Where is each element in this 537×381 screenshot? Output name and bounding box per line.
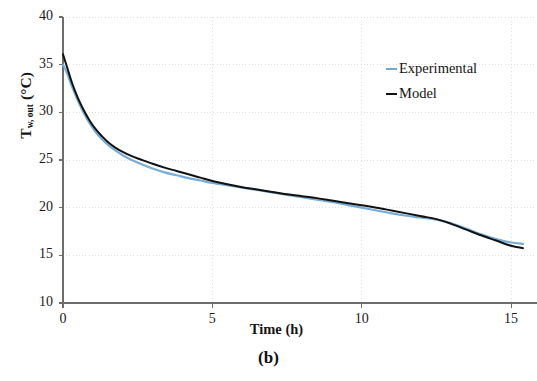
y-tick-label: 15 <box>19 246 53 262</box>
panel-caption: (b) <box>0 348 537 368</box>
y-axis-title-main: T <box>17 128 34 138</box>
y-axis-title: Tw, out (°C) <box>17 25 36 185</box>
y-axis-title-unit: (°C) <box>17 72 34 104</box>
y-tick-label: 20 <box>19 199 53 215</box>
legend-item: Model <box>386 81 526 106</box>
legend-item: Experimental <box>386 56 526 81</box>
x-axis-title: Time (h) <box>0 321 537 338</box>
legend-line-icon <box>386 93 397 95</box>
panel-caption-text: (b) <box>258 348 279 367</box>
legend-line-icon <box>386 68 397 70</box>
chart-svg <box>0 0 537 345</box>
x-axis-title-text: Time (h) <box>234 321 303 337</box>
chart-plot: 40353025201510 051015 Tw, out (°C) Exper… <box>0 0 537 345</box>
y-tick-label: 40 <box>19 8 53 24</box>
y-tick-label: 10 <box>19 294 53 310</box>
y-axis-title-subscript: w, out <box>25 104 35 128</box>
legend-label: Model <box>399 85 437 102</box>
legend: ExperimentalModel <box>386 56 526 106</box>
figure-panel-b: 40353025201510 051015 Tw, out (°C) Exper… <box>0 0 537 381</box>
legend-label: Experimental <box>399 60 477 77</box>
